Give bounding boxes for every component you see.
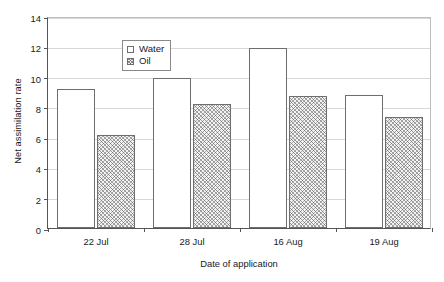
x-tick-label: 22 Jul <box>83 236 108 247</box>
bar-chart: Net assimilation rate 02468101214 22 Jul… <box>0 0 444 282</box>
x-tick-mark <box>336 228 337 232</box>
x-tick-label: 16 Aug <box>273 236 302 247</box>
y-tick-mark <box>44 108 48 109</box>
legend-swatch-oil-icon <box>127 58 134 65</box>
bar-water-22-jul <box>57 89 95 228</box>
y-tick-label: 8 <box>36 103 41 114</box>
y-tick-label: 0 <box>36 225 41 236</box>
legend-item-water: Water <box>127 43 164 55</box>
gridline <box>48 78 430 79</box>
legend: Water Oil <box>122 40 171 71</box>
y-tick-mark <box>44 139 48 140</box>
legend-swatch-water-icon <box>127 46 134 53</box>
y-tick-label: 2 <box>36 194 41 205</box>
x-tick-label: 28 Jul <box>179 236 204 247</box>
y-axis-title: Net assimilation rate <box>9 6 27 236</box>
gridline <box>48 48 430 49</box>
x-tick-label: 19 Aug <box>369 236 398 247</box>
bar-oil-22-jul <box>97 135 135 228</box>
gridline <box>48 18 430 19</box>
x-tick-mark <box>240 228 241 232</box>
bar-oil-28-jul <box>193 104 231 228</box>
y-tick-mark <box>44 199 48 200</box>
y-tick-label: 14 <box>31 13 41 24</box>
bar-oil-19-aug <box>385 117 423 228</box>
y-tick-label: 10 <box>31 73 41 84</box>
y-tick-label: 12 <box>31 43 41 54</box>
y-tick-mark <box>44 18 48 19</box>
x-tick-mark <box>48 228 49 232</box>
y-tick-label: 4 <box>36 164 41 175</box>
x-tick-mark <box>144 228 145 232</box>
bar-water-19-aug <box>345 95 383 228</box>
bar-water-16-aug <box>249 48 287 228</box>
legend-item-oil: Oil <box>127 55 164 67</box>
x-tick-mark <box>432 228 433 232</box>
bar-water-28-jul <box>153 78 191 228</box>
y-tick-mark <box>44 48 48 49</box>
bar-oil-16-aug <box>289 96 327 229</box>
x-axis-title: Date of application <box>47 258 431 269</box>
y-tick-mark <box>44 78 48 79</box>
plot-area: 02468101214 22 Jul28 Jul16 Aug19 Aug Wat… <box>47 17 431 229</box>
legend-label-oil: Oil <box>139 55 151 67</box>
y-tick-label: 6 <box>36 134 41 145</box>
legend-label-water: Water <box>139 43 164 55</box>
y-tick-mark <box>44 169 48 170</box>
